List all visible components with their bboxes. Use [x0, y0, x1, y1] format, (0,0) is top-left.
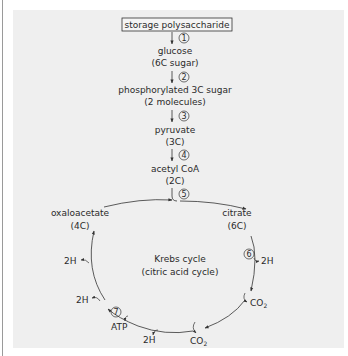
- step-4-arrow: 4: [172, 149, 189, 161]
- krebs-cycle-diagram: storage polysaccharide 1 glucose (6C sug…: [0, 0, 348, 356]
- left-upper-2h-output: 2H: [64, 256, 89, 266]
- start-box: storage polysaccharide: [122, 18, 232, 31]
- step-1-arrow: 1: [172, 32, 189, 44]
- right-2h-label: 2H: [261, 256, 274, 266]
- step-3-arrow: 3: [172, 110, 189, 122]
- step-5-entry: 5: [172, 188, 189, 201]
- bottom-2h-label: 2H: [143, 335, 156, 345]
- acetyl-coa-label: acetyl CoA: [151, 164, 200, 174]
- oxaloacetate-label: oxaloacetate: [51, 208, 110, 218]
- pyruvate-label: pyruvate: [155, 125, 196, 135]
- step-3-number: 3: [181, 112, 186, 121]
- bottom-co2-label: CO2: [190, 336, 207, 347]
- step-5-number: 5: [181, 190, 186, 199]
- citrate-detail: (6C): [227, 221, 246, 231]
- right-co2-output: CO2: [244, 293, 268, 309]
- right-co2-label: CO2: [250, 298, 267, 309]
- step-7-number: 7: [113, 308, 118, 317]
- left-upper-2h-label: 2H: [64, 256, 77, 266]
- oxaloacetate-detail: (4C): [70, 221, 89, 231]
- cycle-subtitle: (citric acid cycle): [142, 267, 219, 277]
- pyruvate-detail: (3C): [165, 137, 184, 147]
- acetyl-coa-detail: (2C): [165, 176, 184, 186]
- step-7-output: 7 ATP: [111, 307, 128, 332]
- step-1-number: 1: [181, 34, 186, 43]
- atp-label: ATP: [111, 322, 128, 332]
- left-lower-2h-output: 2H: [76, 295, 100, 305]
- phospho-sugar-detail: (2 molecules): [144, 97, 205, 107]
- glucose-label: glucose: [158, 46, 193, 56]
- step-6-number: 6: [246, 250, 251, 259]
- step-2-arrow: 2: [172, 71, 189, 83]
- step-4-number: 4: [181, 151, 186, 160]
- bottom-co2-output: CO2: [190, 322, 207, 347]
- left-lower-2h-label: 2H: [76, 295, 89, 305]
- bottom-2h-output: 2H: [143, 330, 158, 345]
- phospho-sugar-label: phosphorylated 3C sugar: [118, 85, 232, 95]
- step-6-output: 6 2H: [244, 249, 274, 266]
- citrate-label: citrate: [222, 208, 252, 218]
- glucose-detail: (6C sugar): [151, 58, 198, 68]
- step-2-number: 2: [181, 73, 186, 82]
- start-box-label: storage polysaccharide: [125, 20, 230, 30]
- cycle-title: Krebs cycle: [154, 254, 206, 264]
